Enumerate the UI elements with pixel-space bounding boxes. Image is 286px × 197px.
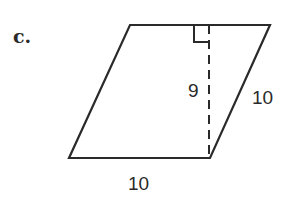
parallelogram-figure: 9 10 10	[0, 0, 286, 197]
right-angle-marker	[194, 25, 209, 42]
parallelogram-shape	[69, 25, 270, 158]
height-label: 9	[188, 80, 199, 101]
side-label: 10	[252, 87, 273, 108]
base-label: 10	[128, 173, 149, 194]
